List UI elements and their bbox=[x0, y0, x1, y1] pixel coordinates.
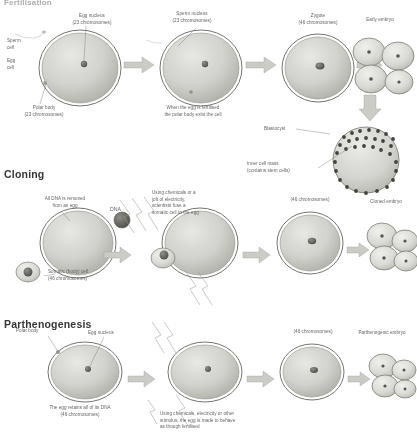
label-polar-body: Polar body (23 chromosomes) bbox=[9, 105, 79, 118]
arrow-partheno-1 bbox=[128, 371, 155, 387]
label-egg-cell: Egg cell bbox=[7, 58, 15, 71]
fert-blastocyst bbox=[333, 127, 399, 195]
label-cloned-chromosomes: (46 chromosomes) bbox=[272, 197, 348, 204]
label-partheno-chromosomes: (46 chromosomes) bbox=[275, 329, 351, 336]
label-inner-cell-mass: Inner cell mass (contains stem cells) bbox=[247, 161, 290, 174]
clone-somatic-cell bbox=[16, 262, 40, 282]
label-early-embryo: Early embryo bbox=[349, 17, 411, 24]
label-blastocyst: Blastocyst bbox=[264, 126, 285, 133]
clone-embryo bbox=[367, 223, 417, 271]
label-fusion-caption: Using chemicals or a jolt of electricity… bbox=[152, 190, 199, 217]
leader-polar-body bbox=[40, 84, 46, 104]
label-stimulus-caption: Using chemicals, electricity or other st… bbox=[160, 411, 235, 431]
label-egg-nucleus: Egg nucleus (23 chromosomes) bbox=[57, 13, 127, 26]
section-title-cloning: Cloning bbox=[4, 168, 44, 180]
fert-fertilised-egg bbox=[160, 30, 242, 106]
label-dna: DNA bbox=[110, 206, 121, 214]
label-somatic-cell: Somatic (body) cell (46 chromosomes) bbox=[48, 269, 88, 282]
clone-fusion-egg bbox=[151, 208, 238, 278]
sperm-cell-icon bbox=[15, 30, 46, 38]
arrow-fert-1 bbox=[124, 57, 154, 73]
diagram-page: Fertilisation Cloning Parthenogenesis Sp… bbox=[0, 0, 417, 446]
leader-blastocyst bbox=[296, 129, 330, 134]
label-retains-dna: The egg retains all of its DNA (46 chrom… bbox=[16, 405, 144, 418]
arrow-partheno-2 bbox=[247, 371, 274, 387]
diagram-artwork bbox=[0, 0, 417, 446]
label-zygote: Zygote (46 chromosomes) bbox=[283, 13, 353, 26]
label-polar-body-p: Polar body bbox=[16, 328, 38, 335]
fert-egg-cell bbox=[39, 30, 121, 106]
label-egg-nucleus-p: Egg nucleus bbox=[88, 330, 114, 337]
clone-enucleated-egg bbox=[40, 208, 116, 278]
arrow-clone-2 bbox=[243, 247, 270, 263]
arrow-partheno-3 bbox=[348, 372, 370, 386]
label-dna-removed: All DNA is removed from an egg bbox=[25, 196, 105, 209]
label-cloned-embryo: Cloned embryo bbox=[356, 199, 416, 206]
label-parthenogenic-embryo: Parthenogenic embryo bbox=[348, 330, 416, 337]
fert-zygote bbox=[282, 34, 354, 102]
partheno-stimulated-egg bbox=[168, 342, 242, 402]
leader-polar-body-p bbox=[48, 336, 57, 350]
clone-zygote bbox=[277, 212, 343, 274]
label-polar-body-exit: When the egg is fertilised the polar bod… bbox=[144, 105, 242, 118]
partheno-zygote bbox=[280, 344, 344, 400]
arrow-fert-4-down bbox=[359, 95, 381, 121]
partheno-egg bbox=[48, 342, 122, 402]
sperm-entering-icon bbox=[146, 40, 162, 43]
label-sperm-nucleus: Sperm nucleus (23 chromosomes) bbox=[157, 11, 227, 24]
section-title-fertilisation: Fertilisation bbox=[4, 0, 52, 7]
label-sperm-cell: Sperm cell bbox=[7, 38, 21, 51]
partheno-embryo bbox=[369, 354, 416, 398]
arrow-fert-2 bbox=[246, 57, 276, 73]
arrow-clone-3 bbox=[347, 243, 369, 257]
clone-extracted-dna bbox=[114, 212, 130, 228]
